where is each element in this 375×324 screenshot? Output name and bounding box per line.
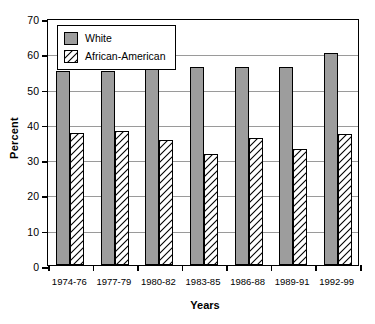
y-tick-label: 60 bbox=[27, 49, 39, 61]
y-tick-label: 40 bbox=[27, 120, 39, 132]
y-tick-mark bbox=[42, 232, 48, 234]
bar-african-american-1989-91 bbox=[293, 149, 307, 265]
y-tick-mark bbox=[42, 126, 48, 128]
y-tick-label: 50 bbox=[27, 85, 39, 97]
bar-white-1977-79 bbox=[101, 71, 115, 265]
bar-white-1986-88 bbox=[235, 67, 249, 265]
hatch-pattern bbox=[339, 135, 351, 264]
y-tick-mark bbox=[42, 161, 48, 163]
legend-label-white: White bbox=[85, 33, 112, 44]
bar-white-1989-91 bbox=[279, 67, 293, 265]
plot-area: 010203040506070 White African-American bbox=[47, 19, 359, 266]
legend-label-african-american: African-American bbox=[85, 51, 166, 62]
bar-african-american-1974-76 bbox=[70, 133, 84, 265]
x-tick-mark bbox=[137, 265, 139, 271]
y-tick-mark bbox=[42, 20, 48, 22]
hatch-pattern bbox=[250, 139, 262, 264]
hatched-swatch bbox=[64, 50, 78, 63]
x-tick-label: 1977-79 bbox=[96, 276, 131, 287]
bar-white-1983-85 bbox=[190, 67, 204, 265]
x-tick-label: 1992-99 bbox=[319, 276, 354, 287]
bar-african-american-1992-99 bbox=[338, 134, 352, 265]
x-tick-mark bbox=[93, 265, 95, 271]
hatch-pattern bbox=[65, 51, 77, 62]
bar-african-american-1980-82 bbox=[159, 140, 173, 265]
legend-item-african-american: African-American bbox=[64, 49, 166, 64]
hatch-pattern bbox=[71, 134, 83, 264]
y-tick-mark bbox=[42, 55, 48, 57]
legend-item-white: White bbox=[64, 31, 166, 46]
bar-chart: Percent 010203040506070 White African-Am… bbox=[0, 0, 375, 324]
bar-white-1974-76 bbox=[56, 71, 70, 265]
bar-african-american-1977-79 bbox=[115, 131, 129, 265]
hatch-pattern bbox=[116, 132, 128, 264]
x-tick-label: 1989-91 bbox=[275, 276, 310, 287]
y-tick-mark bbox=[42, 196, 48, 198]
bar-white-1992-99 bbox=[324, 53, 338, 265]
x-tick-mark bbox=[360, 265, 362, 271]
y-tick-label: 10 bbox=[27, 226, 39, 238]
hatch-pattern bbox=[205, 155, 217, 264]
x-tick-label: 1980-82 bbox=[141, 276, 176, 287]
x-tick-label: 1974-76 bbox=[52, 276, 87, 287]
x-axis-title: Years bbox=[45, 299, 365, 311]
x-tick-mark bbox=[226, 265, 228, 271]
y-tick-label: 0 bbox=[33, 261, 39, 273]
bar-african-american-1983-85 bbox=[204, 154, 218, 265]
bar-african-american-1986-88 bbox=[249, 138, 263, 265]
x-tick-label: 1986-88 bbox=[230, 276, 265, 287]
bar-white-1980-82 bbox=[145, 67, 159, 265]
y-tick-label: 30 bbox=[27, 155, 39, 167]
y-tick-mark bbox=[42, 91, 48, 93]
chart-legend: White African-American bbox=[57, 25, 176, 70]
x-tick-mark bbox=[48, 265, 50, 271]
x-tick-mark bbox=[182, 265, 184, 271]
x-tick-mark bbox=[271, 265, 273, 271]
hatch-pattern bbox=[294, 150, 306, 264]
solid-gray-swatch bbox=[64, 32, 78, 45]
y-tick-label: 70 bbox=[27, 14, 39, 26]
y-axis-title: Percent bbox=[8, 103, 20, 173]
y-tick-label: 20 bbox=[27, 190, 39, 202]
hatch-pattern bbox=[160, 141, 172, 264]
x-tick-mark bbox=[315, 265, 317, 271]
x-tick-label: 1983-85 bbox=[186, 276, 221, 287]
